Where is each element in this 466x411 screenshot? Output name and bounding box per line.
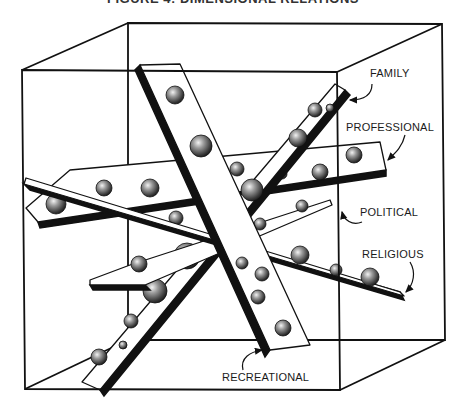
sphere-icon xyxy=(346,147,362,163)
professional-arrow-icon xyxy=(388,135,405,160)
sphere-icon xyxy=(91,349,107,365)
sphere-icon xyxy=(230,162,244,176)
cube-edge xyxy=(337,24,442,72)
sphere-icon xyxy=(124,314,138,328)
plank-shadow xyxy=(90,285,150,290)
recreational-arrow-icon xyxy=(242,350,262,370)
sphere-icon xyxy=(241,179,263,201)
label-professional: PROFESSIONAL xyxy=(346,121,434,133)
sphere-icon xyxy=(255,267,269,281)
label-family: FAMILY xyxy=(370,67,410,79)
sphere-icon xyxy=(326,104,334,112)
relationship-planks xyxy=(24,64,404,396)
political-arrow-icon xyxy=(342,212,362,223)
sphere-icon xyxy=(312,164,328,180)
cube-edge xyxy=(340,340,445,390)
sphere-icon xyxy=(236,257,248,269)
cube-edge xyxy=(22,23,128,70)
sphere-icon xyxy=(96,180,112,196)
dimensional-relations-diagram: FAMILY PROFESSIONAL POLITICAL RELIGIOUS … xyxy=(0,0,466,411)
sphere-icon xyxy=(131,256,147,272)
sphere-icon xyxy=(308,103,322,117)
family-arrow-icon xyxy=(350,84,372,100)
sphere-icon xyxy=(330,264,342,276)
sphere-icon xyxy=(119,341,127,349)
sphere-icon xyxy=(361,268,379,286)
religious-arrow-icon xyxy=(406,262,413,292)
sphere-icon xyxy=(275,320,291,336)
sphere-icon xyxy=(190,135,212,157)
sphere-icon xyxy=(166,86,184,104)
label-political: POLITICAL xyxy=(360,206,418,218)
sphere-icon xyxy=(291,246,309,264)
sphere-icon xyxy=(289,129,307,147)
sphere-icon xyxy=(141,179,159,197)
label-recreational: RECREATIONAL xyxy=(222,371,309,383)
sphere-icon xyxy=(296,200,308,212)
label-religious: RELIGIOUS xyxy=(362,248,424,260)
sphere-icon xyxy=(251,290,265,304)
